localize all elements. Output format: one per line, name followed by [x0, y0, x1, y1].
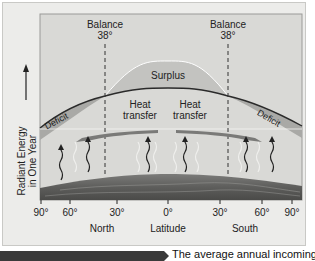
x-region-south: South — [225, 223, 265, 234]
x-tick-90-north: 90° — [31, 207, 51, 218]
heat-transfer-label-right: Heat transfer — [165, 99, 215, 121]
transfer-text: transfer — [115, 110, 165, 121]
balance-degree: 38° — [85, 30, 125, 41]
x-tick-90-south: 90° — [282, 207, 302, 218]
balance-text: Balance — [85, 19, 125, 30]
x-tick-60-north: 60° — [60, 207, 80, 218]
caption-bar — [0, 251, 164, 261]
y-axis-label-line2: in One Year — [27, 106, 38, 216]
transfer-text: transfer — [165, 110, 215, 121]
heat-text: Heat — [115, 99, 165, 110]
x-region-north: North — [82, 223, 122, 234]
balance-label-right: Balance 38° — [208, 19, 248, 41]
x-axis-title-latitude: Latitude — [143, 223, 193, 234]
balance-label-left: Balance 38° — [85, 19, 125, 41]
balance-text: Balance — [208, 19, 248, 30]
y-axis-label: Radiant Energy in One Year — [16, 106, 38, 216]
x-tick-30-south: 30° — [210, 207, 230, 218]
balance-degree: 38° — [208, 30, 248, 41]
x-tick-0: 0° — [158, 207, 178, 218]
caption-text: The average annual incoming — [172, 248, 315, 260]
y-axis-label-line1: Radiant Energy — [16, 106, 27, 216]
surplus-label: Surplus — [148, 70, 188, 81]
caption-bar-notch — [164, 251, 169, 261]
x-tick-30-north: 30° — [107, 207, 127, 218]
y-axis-arrow — [23, 64, 29, 100]
x-axis-ticks — [41, 200, 292, 204]
heat-transfer-label-left: Heat transfer — [115, 99, 165, 121]
x-tick-60-south: 60° — [252, 207, 272, 218]
heat-text: Heat — [165, 99, 215, 110]
